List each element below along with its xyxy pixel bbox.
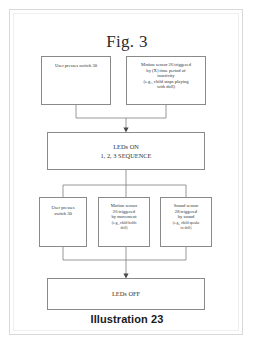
node-text: Sound sensor 28 triggered by sound xyxy=(161,203,211,220)
node-text: LEDs ON 1, 2, 3 SEQUENCE xyxy=(48,142,204,161)
node-user-presses-switch-top: User presses switch 30 xyxy=(41,56,111,105)
flowchart: User presses switch 30 Motion sensor 26 … xyxy=(10,10,244,336)
node-motion-sensor-movement: Motion sensor 26 triggered by movement (… xyxy=(98,197,150,247)
node-leds-on: LEDs ON 1, 2, 3 SEQUENCE xyxy=(47,132,205,170)
wire-mid-merge xyxy=(63,247,186,260)
node-text: User presses switch 30 xyxy=(42,63,110,69)
node-user-presses-switch-mid: User presses switch 30 xyxy=(39,197,87,247)
node-leds-off: LEDs OFF xyxy=(47,278,205,310)
node-text: User presses switch 30 xyxy=(40,205,86,216)
wire-mid-fanout xyxy=(63,185,186,197)
node-sound-sensor-sound: Sound sensor 28 triggered by sound (e.g.… xyxy=(160,197,212,247)
node-text: Motion sensor 26 triggered by movement xyxy=(99,203,149,220)
figure-sheet: Fig. 3 User presses switch 30 Motion sen… xyxy=(9,9,243,335)
node-motion-sensor-inactivity: Motion sensor 26 triggered by (X) time p… xyxy=(126,56,206,105)
illustration-caption: Illustration 23 xyxy=(10,313,244,325)
node-example-text: (e.g., child speaks to doll) xyxy=(161,221,211,230)
wire-top-merge xyxy=(76,105,166,118)
node-example-text: (e.g., child holds doll) xyxy=(99,221,149,230)
node-text: Motion sensor 26 triggered by (X) time p… xyxy=(127,62,205,90)
node-text: LEDs OFF xyxy=(48,290,204,298)
